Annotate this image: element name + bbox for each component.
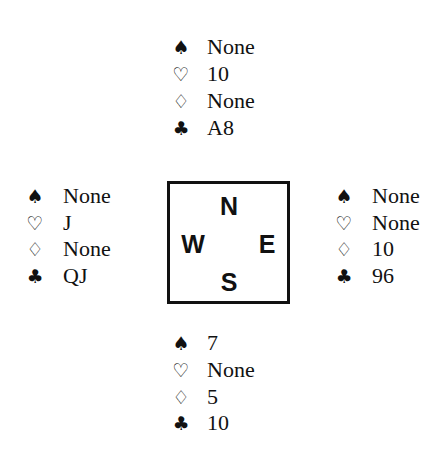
spade-icon: ♠ [170,35,192,59]
diamond-icon: ♢ [170,385,192,409]
diamond-icon: ♢ [24,237,46,261]
south-clubs-cards: 10 [207,411,229,435]
south-hearts-cards: None [207,358,255,382]
south-spades-cards: 7 [207,331,218,355]
compass-north-label: N [216,194,242,219]
heart-icon: ♡ [333,211,355,235]
east-diamonds-cards: 10 [372,237,394,261]
compass-west-label: W [178,232,208,257]
north-spades-cards: None [207,35,255,59]
compass-south-label: S [216,270,242,295]
heart-icon: ♡ [24,211,46,235]
club-icon: ♣ [24,264,46,288]
club-icon: ♣ [170,411,192,435]
heart-icon: ♡ [170,62,192,86]
east-hearts-cards: None [372,211,420,235]
diamond-icon: ♢ [170,89,192,113]
east-spades-cards: None [372,184,420,208]
east-clubs-cards: 96 [372,264,394,288]
club-icon: ♣ [170,116,192,140]
spade-icon: ♠ [333,184,355,208]
compass-east-label: E [254,232,280,257]
spade-icon: ♠ [170,331,192,355]
west-clubs-cards: QJ [63,264,87,288]
compass-box: N W E S [167,181,290,304]
club-icon: ♣ [333,264,355,288]
west-diamonds-cards: None [63,237,111,261]
north-hearts-cards: 10 [207,62,229,86]
spade-icon: ♠ [24,184,46,208]
west-spades-cards: None [63,184,111,208]
north-clubs-cards: A8 [207,116,234,140]
west-hearts-cards: J [63,211,72,235]
south-diamonds-cards: 5 [207,385,218,409]
diamond-icon: ♢ [333,237,355,261]
heart-icon: ♡ [170,358,192,382]
north-diamonds-cards: None [207,89,255,113]
